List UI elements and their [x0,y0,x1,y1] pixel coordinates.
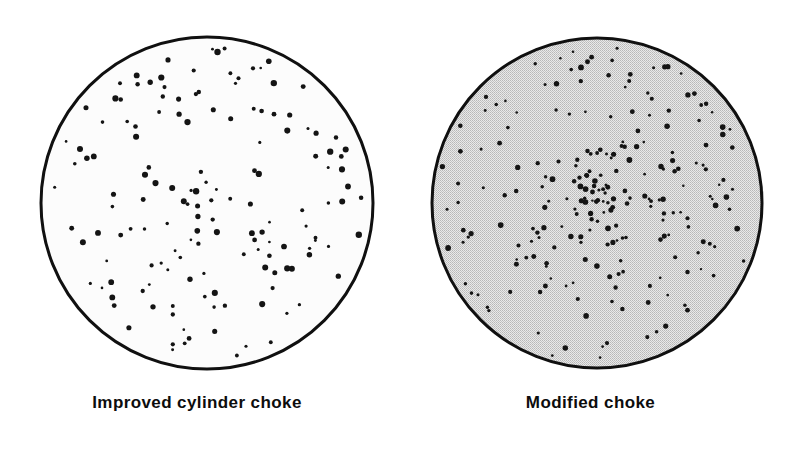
pellet-hole [178,256,182,260]
pellet-hole [484,95,488,99]
pellet-hole [165,222,168,225]
pellet-hole [619,259,623,263]
pellet-hole [545,265,548,268]
pellet-hole [228,71,232,75]
pellet-hole [134,72,140,78]
pellet-hole [469,231,474,236]
pellet-hole [141,197,146,202]
pellet-hole [670,158,675,163]
pellet-hole [595,151,599,155]
panel-modified: Modified choke [394,0,787,453]
pellet-hole [464,282,467,285]
pellet-hole [228,116,233,121]
pellet-hole [236,76,240,80]
pellet-hole [672,211,675,214]
pellet-hole [542,205,547,210]
pellet-hole [462,241,465,244]
pellet-hole [636,129,641,134]
pellet-hole [514,262,519,267]
pellet-hole [503,193,507,197]
pellet-hole [470,291,474,295]
pellet-hole [142,172,148,178]
pellet-hole [579,198,584,203]
pellet-hole [649,205,652,208]
pellet-hole [742,259,745,262]
pellet-hole [105,259,108,262]
pellet-hole [189,189,192,192]
pellet-hole [712,274,716,278]
pellet-hole [605,341,609,345]
pellet-hole [560,225,563,228]
pellet-hole [494,103,498,107]
pellet-hole [602,211,605,214]
pellet-hole [652,66,655,69]
pellet-hole [663,324,668,329]
pellet-hole [625,201,630,206]
pellet-hole [285,312,288,315]
pellet-hole [69,226,74,231]
pellet-hole [628,72,633,77]
pellet-hole [305,225,308,228]
pellet-hole [148,80,153,85]
pellet-hole [575,212,579,216]
pellet-hole [622,144,626,148]
pellet-hole [118,233,123,238]
pellet-hole [634,144,639,149]
pellet-hole [287,112,292,117]
pellet-hole [702,164,705,167]
pellet-hole [211,217,215,221]
pellet-hole [339,166,345,172]
pellet-hole [594,199,599,204]
pellet-hole [610,300,614,304]
pellet-hole [171,342,175,346]
pellet-hole [235,354,239,358]
pellet-hole [616,239,619,242]
pellet-hole [597,188,600,191]
pellet-hole [720,132,725,137]
pellet-hole [573,207,576,210]
pellet-hole [194,228,200,234]
pellet-hole [699,103,703,107]
pellet-hole [624,86,627,89]
choke-pattern-figure: Improved cylinder choke Modifi [0,0,787,453]
pellet-hole [187,336,192,341]
pellet-hole [80,239,86,245]
pellet-hole [672,169,676,173]
pellet-hole [508,290,512,294]
pellet-hole [498,222,504,228]
pellet-hole [643,173,646,176]
pellet-hole [537,331,540,334]
pellet-hole [607,274,612,279]
pellet-hole [289,266,295,272]
pellet-hole [649,199,653,203]
pellet-hole [538,290,542,294]
pellet-hole [497,141,502,146]
pellet-hole [336,274,341,279]
pellet-hole [313,154,318,159]
pellet-hole [181,198,187,204]
pellet-hole [536,161,540,165]
pellet-hole [596,219,600,223]
pellet-hole [484,109,487,112]
pellet-hole [209,198,213,202]
pellet-hole [611,196,616,201]
caption-improved-cylinder: Improved cylinder choke [0,392,394,414]
pellet-hole [642,193,647,198]
pellet-hole [544,261,549,266]
pellet-hole [621,270,625,274]
pellet-hole [476,293,479,296]
pellet-hole [515,165,520,170]
pellet-hole [661,219,664,222]
pellet-hole [585,59,590,64]
pattern-target-improved-cylinder [0,0,394,386]
pellet-hole [456,182,460,186]
pellet-hole [242,252,246,256]
pellet-hole [601,187,605,191]
pellet-hole [150,263,154,267]
pellet-hole [695,161,698,164]
pellet-hole [249,230,255,236]
pellet-hole [608,208,613,213]
pellet-hole [171,304,175,308]
pellet-hole [588,228,591,231]
pellet-hole [579,241,582,244]
